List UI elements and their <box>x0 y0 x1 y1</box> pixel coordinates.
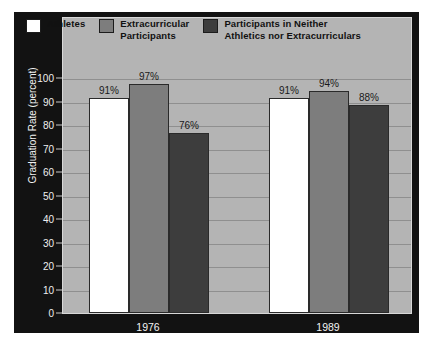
legend-swatch-icon <box>26 19 41 33</box>
legend-label: Participants in Neither Athletics nor Ex… <box>224 18 361 41</box>
y-tick-label: 30 <box>43 237 54 248</box>
x-tick-label: 1976 <box>136 321 159 333</box>
y-tick-label: 20 <box>43 261 54 272</box>
bar-value-label: 91% <box>84 85 134 96</box>
bar <box>129 84 169 313</box>
y-tick-label: 40 <box>43 214 54 225</box>
legend-label: Extracurricular Participants <box>120 18 189 41</box>
x-tick-label: 1989 <box>316 321 339 333</box>
bar <box>169 133 209 313</box>
chart-figure: Graduation Rate (percent) 01020304050607… <box>14 12 419 333</box>
y-tick-label: 60 <box>43 167 54 178</box>
y-tick-label: 100 <box>37 73 54 84</box>
bar <box>309 91 349 313</box>
legend-item[interactable]: Participants in Neither Athletics nor Ex… <box>203 18 361 41</box>
legend-item[interactable]: Athletes <box>26 18 85 33</box>
bar-value-label: 94% <box>304 78 354 89</box>
legend-swatch-icon <box>99 19 114 33</box>
legend-item[interactable]: Extracurricular Participants <box>99 18 189 41</box>
bar-value-label: 76% <box>164 120 214 131</box>
y-tick-label: 50 <box>43 190 54 201</box>
y-tick-label: 70 <box>43 143 54 154</box>
chart-legend: AthletesExtracurricular ParticipantsPart… <box>14 12 419 66</box>
bar-value-label: 88% <box>344 92 394 103</box>
legend-swatch-icon <box>203 19 218 33</box>
y-tick-label: 80 <box>43 120 54 131</box>
bar <box>349 105 389 313</box>
legend-label: Athletes <box>47 18 85 30</box>
bar <box>269 98 309 313</box>
x-axis: 19761989 <box>62 315 412 335</box>
bar <box>89 98 129 313</box>
bar-value-label: 97% <box>124 71 174 82</box>
y-tick-label: 90 <box>43 96 54 107</box>
gridline <box>63 79 411 80</box>
y-tick-label: 10 <box>43 284 54 295</box>
y-tick-label: 0 <box>48 308 54 319</box>
